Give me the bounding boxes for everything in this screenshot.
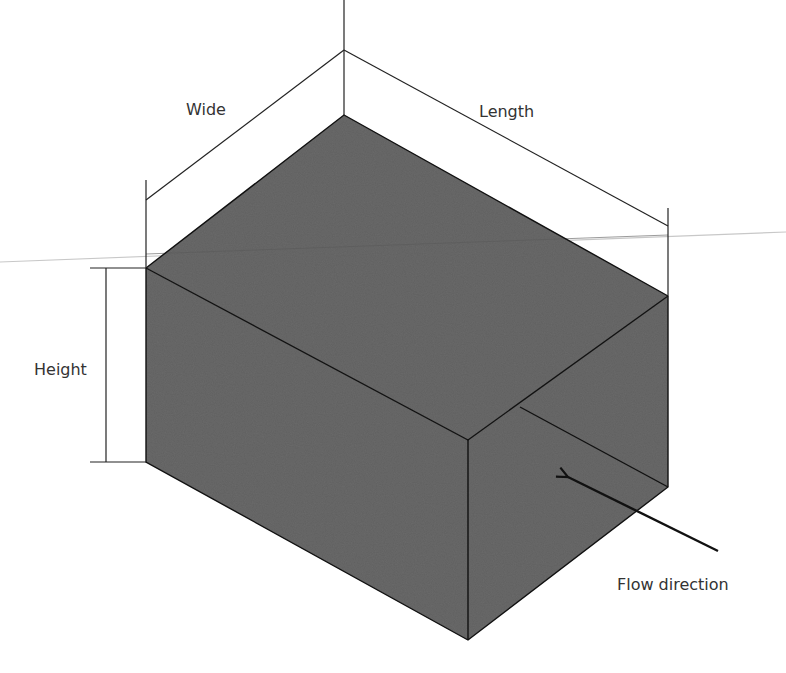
box-faces	[146, 115, 668, 640]
box-diagram-svg	[0, 0, 786, 673]
wide-label: Wide	[186, 100, 226, 119]
flow-direction-label: Flow direction	[617, 575, 729, 594]
height-label: Height	[34, 360, 87, 379]
length-label: Length	[479, 102, 534, 121]
diagram-canvas: Wide Length Height Flow direction	[0, 0, 786, 673]
